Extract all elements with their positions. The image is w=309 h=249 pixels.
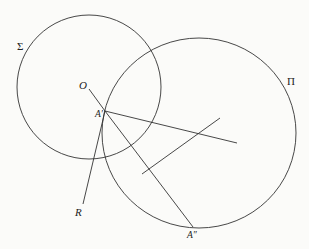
bisector-line: [142, 118, 220, 174]
geometry-diagram: Σ Π O A′ R A″: [0, 0, 309, 249]
label-a-prime: A′: [95, 110, 103, 120]
label-o: O: [79, 80, 87, 91]
label-sigma: Σ: [17, 41, 23, 52]
diagram-svg: [0, 0, 309, 249]
label-pi: Π: [287, 76, 295, 87]
label-a-double-prime: A″: [187, 231, 197, 241]
circle-sigma: [17, 15, 161, 159]
segment-o-a-prime: [89, 89, 105, 111]
segment-a-prime-ray: [105, 111, 237, 143]
label-r: R: [75, 207, 82, 218]
